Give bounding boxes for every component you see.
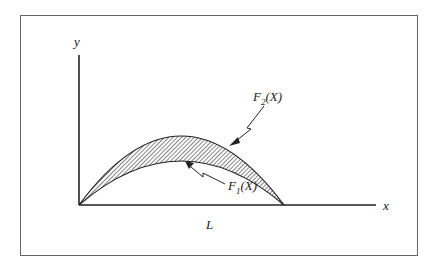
f1-leader-line bbox=[191, 167, 225, 184]
f1-label: F1(X) bbox=[228, 178, 257, 196]
y-axis-label: y bbox=[74, 34, 80, 50]
f2-arrowhead-icon bbox=[229, 137, 240, 146]
f2-label: F2(X) bbox=[253, 89, 282, 107]
f2-leader-line bbox=[236, 106, 264, 141]
diagram-canvas bbox=[0, 0, 436, 269]
figure-frame bbox=[21, 16, 418, 256]
x-axis-label: x bbox=[383, 198, 389, 214]
length-label: L bbox=[206, 217, 213, 233]
